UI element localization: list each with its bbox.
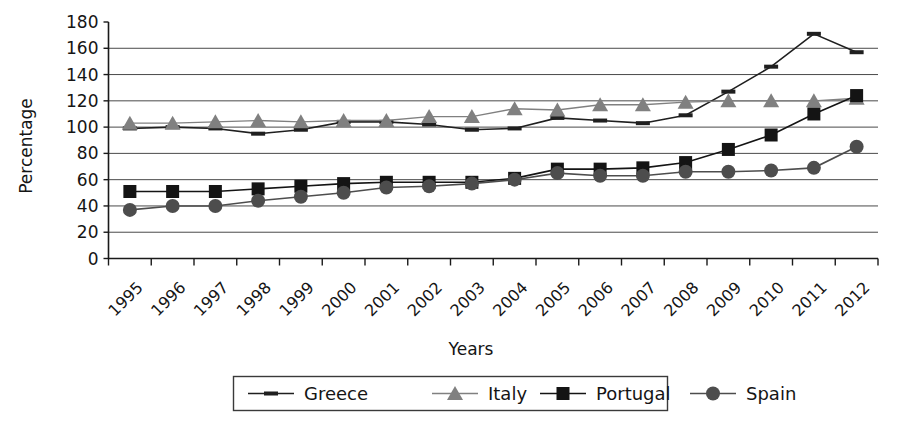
data-series-layer [122, 32, 865, 217]
x-axis-ticks-group [109, 259, 879, 266]
data-point-marker [123, 185, 136, 198]
data-point-marker [465, 128, 479, 132]
data-point-marker [251, 194, 265, 208]
data-point-marker [508, 173, 522, 187]
data-point-marker [294, 190, 308, 204]
x-tick-label: 1998 [233, 278, 275, 320]
legend-label: Greece [304, 383, 368, 404]
data-point-marker [721, 165, 735, 179]
x-tick-label: 1999 [275, 278, 317, 320]
x-tick-label: 2001 [361, 278, 403, 320]
x-tick-label: 2008 [660, 278, 702, 320]
data-point-marker [264, 392, 278, 396]
data-point-marker [337, 186, 351, 200]
x-tick-label: 2009 [703, 278, 745, 320]
data-point-marker [166, 199, 180, 213]
data-point-marker [807, 32, 821, 36]
y-axis-tick-labels: 020406080100120140160180 [66, 12, 98, 269]
y-tick-label: 20 [77, 222, 99, 242]
data-point-marker [550, 166, 564, 180]
legend-item-spain[interactable]: Spain [690, 383, 796, 404]
x-axis-title: Years [448, 339, 494, 359]
x-tick-label: 2002 [404, 278, 446, 320]
chart-legend: GreeceItalyPortugalSpain [234, 377, 797, 411]
series-spain [123, 140, 864, 217]
data-point-marker [123, 203, 137, 217]
data-point-marker [251, 132, 265, 136]
data-point-marker [508, 126, 522, 130]
x-axis-tick-labels: 1995199619971998199920002001200220032004… [104, 278, 873, 320]
y-tick-label: 0 [88, 249, 99, 269]
data-point-marker [807, 161, 821, 175]
data-point-marker [252, 182, 265, 195]
data-point-marker [636, 121, 650, 125]
y-axis-title: Percentage [16, 98, 36, 194]
x-tick-label: 2000 [318, 278, 360, 320]
data-point-marker [764, 65, 778, 69]
data-point-marker [593, 119, 607, 123]
y-tick-label: 180 [66, 12, 98, 32]
x-tick-label: 2005 [532, 278, 574, 320]
data-point-marker [379, 181, 393, 195]
x-tick-label: 2007 [617, 278, 659, 320]
legend-items-group: GreeceItalyPortugalSpain [248, 383, 796, 404]
data-point-marker [764, 163, 778, 177]
data-point-marker [593, 169, 607, 183]
x-tick-label: 2011 [788, 278, 830, 320]
x-tick-label: 1996 [147, 278, 189, 320]
data-point-marker [807, 107, 820, 120]
data-point-marker [636, 169, 650, 183]
data-point-marker [706, 387, 720, 401]
y-tick-label: 120 [66, 91, 98, 111]
y-tick-label: 80 [77, 143, 99, 163]
data-point-marker [850, 89, 863, 102]
data-point-marker [679, 165, 693, 179]
y-tick-label: 100 [66, 117, 98, 137]
y-tick-label: 140 [66, 65, 98, 85]
y-tick-label: 60 [77, 170, 99, 190]
line-chart: 020406080100120140160180 199519961997199… [0, 0, 898, 429]
data-point-marker [166, 185, 179, 198]
x-tick-label: 2004 [489, 278, 531, 320]
x-tick-label: 1997 [190, 278, 232, 320]
x-tick-label: 2010 [746, 278, 788, 320]
series-greece [123, 32, 864, 136]
legend-label: Portugal [596, 383, 671, 404]
x-tick-label: 2012 [831, 278, 873, 320]
data-point-marker [557, 387, 570, 400]
x-tick-label: 2003 [446, 278, 488, 320]
data-point-marker [722, 143, 735, 156]
data-point-marker [422, 179, 436, 193]
x-tick-label: 2006 [575, 278, 617, 320]
series-line [130, 98, 857, 123]
legend-label: Italy [488, 383, 527, 404]
series-italy [122, 91, 865, 130]
data-point-marker [465, 177, 479, 191]
chart-figure: 020406080100120140160180 199519961997199… [0, 0, 898, 429]
series-line [130, 147, 857, 210]
legend-label: Spain [746, 383, 796, 404]
data-point-marker [679, 113, 693, 117]
y-tick-label: 40 [77, 196, 99, 216]
series-line [130, 96, 857, 192]
x-tick-label: 1995 [104, 278, 146, 320]
series-line [130, 34, 857, 134]
data-point-marker [765, 128, 778, 141]
data-point-marker [208, 199, 222, 213]
data-point-marker [850, 50, 864, 54]
data-point-marker [850, 140, 864, 154]
data-point-marker [209, 185, 222, 198]
data-point-marker [721, 90, 735, 94]
y-tick-label: 160 [66, 38, 98, 58]
